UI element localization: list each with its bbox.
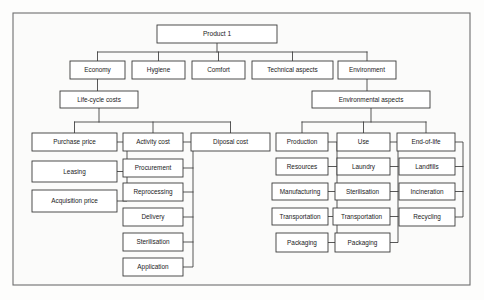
node-label-envaspects: Environmental aspects [339, 96, 404, 104]
node-technical[interactable]: Technical aspects [252, 61, 333, 79]
hierarchy-diagram: Product 1EconomyHygieneComfortTechnical … [0, 0, 484, 300]
node-label-laundry: Laundry [352, 163, 376, 171]
node-label-delivery: Delivery [141, 213, 165, 221]
node-product1[interactable]: Product 1 [157, 25, 277, 43]
node-endoflife[interactable]: End-of-life [397, 133, 455, 151]
node-envaspects[interactable]: Environmental aspects [312, 91, 430, 108]
node-environment[interactable]: Environment [338, 61, 396, 79]
node-delivery[interactable]: Delivery [123, 208, 183, 226]
node-lifecycle[interactable]: Life-cycle costs [60, 91, 138, 108]
node-laundry[interactable]: Laundry [337, 158, 390, 175]
node-economy[interactable]: Economy [70, 61, 125, 79]
node-comfort[interactable]: Comfort [192, 61, 245, 79]
node-label-purchase: Purchase price [53, 138, 96, 146]
node-label-leasing: Leasing [63, 168, 86, 176]
node-label-environment: Environment [349, 66, 385, 73]
node-packaging-u[interactable]: Packaging [335, 233, 390, 252]
node-label-landfills: Landfills [415, 163, 438, 170]
node-label-sterilisation-a: Sterilisation [136, 238, 169, 245]
node-recycling[interactable]: Recycling [399, 208, 455, 226]
node-label-manufacturing: Manufacturing [280, 188, 321, 196]
node-label-technical: Technical aspects [267, 66, 317, 74]
node-hygiene[interactable]: Hygiene [132, 61, 185, 79]
node-resources[interactable]: Resources [276, 158, 328, 175]
node-label-activity: Activity cost [136, 138, 170, 146]
node-transportation-u[interactable]: Transportation [333, 208, 390, 225]
node-activity[interactable]: Activity cost [123, 133, 183, 151]
node-label-endoflife: End-of-life [411, 138, 441, 145]
node-label-incineration: Incineration [410, 188, 443, 195]
node-label-resources: Resources [287, 163, 318, 170]
node-label-comfort: Comfort [207, 66, 230, 73]
node-label-product1: Product 1 [203, 30, 232, 37]
node-sterilisation-u[interactable]: Sterilisation [335, 183, 390, 200]
node-manufacturing[interactable]: Manufacturing [272, 183, 328, 200]
node-acquisition[interactable]: Acquisition price [32, 190, 117, 212]
node-label-sterilisation-u: Sterilisation [346, 188, 379, 195]
node-label-packaging-u: Packaging [348, 239, 378, 247]
node-label-reprocessing: Reprocessing [133, 188, 173, 196]
node-label-hygiene: Hygiene [147, 66, 171, 74]
node-purchase[interactable]: Purchase price [32, 133, 117, 151]
node-reprocessing[interactable]: Reprocessing [123, 183, 183, 201]
node-procurement[interactable]: Procurement [123, 159, 183, 177]
node-label-transportation-u: Transportation [341, 213, 382, 221]
node-landfills[interactable]: Landfills [399, 158, 455, 175]
node-transportation-p[interactable]: Transportation [272, 208, 328, 225]
node-label-application: Application [137, 263, 169, 271]
node-label-use: Use [358, 138, 370, 145]
node-label-production: Production [287, 138, 318, 145]
node-label-economy: Economy [84, 66, 111, 74]
node-label-transportation-p: Transportation [280, 213, 321, 221]
node-label-acquisition: Acquisition price [51, 197, 98, 205]
node-diposal[interactable]: Diposal cost [191, 133, 270, 151]
node-incineration[interactable]: Incineration [399, 183, 455, 200]
node-label-recycling: Recycling [413, 213, 441, 221]
node-label-lifecycle: Life-cycle costs [77, 96, 121, 104]
node-leasing[interactable]: Leasing [32, 161, 117, 182]
node-label-diposal: Diposal cost [213, 138, 248, 146]
diagram-page: Product 1EconomyHygieneComfortTechnical … [0, 0, 484, 300]
node-use[interactable]: Use [337, 133, 390, 151]
node-application[interactable]: Application [123, 258, 183, 276]
node-sterilisation-a[interactable]: Sterilisation [123, 233, 183, 251]
node-label-procurement: Procurement [135, 164, 172, 171]
node-packaging-p[interactable]: Packaging [276, 233, 328, 252]
node-production[interactable]: Production [276, 133, 328, 151]
node-label-packaging-p: Packaging [287, 239, 317, 247]
